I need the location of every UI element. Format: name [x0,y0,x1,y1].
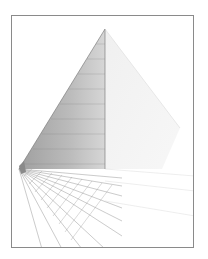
right-face [105,29,180,169]
figure-frame [11,15,194,248]
floor-grid-radial [19,169,122,248]
pyramid-illustration [12,16,194,248]
floor-grid-transverse [24,169,112,240]
floor-light-grid [105,169,194,216]
